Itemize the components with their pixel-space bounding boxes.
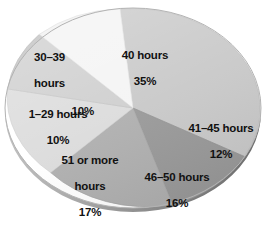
pie-top-sheen bbox=[5, 8, 261, 208]
pie-chart-graphic bbox=[0, 0, 267, 232]
pie-chart-figure: 40 hours 35% 41–45 hours 12% 46–50 hours… bbox=[0, 0, 267, 232]
